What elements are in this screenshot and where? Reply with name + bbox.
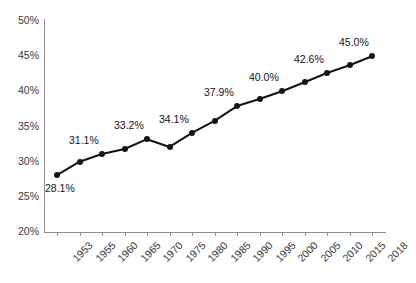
x-tick-mark [372,232,373,236]
data-point-marker [257,96,263,102]
x-tick-label: 2005 [317,239,342,264]
x-tick-label: 1995 [272,239,297,264]
data-point-marker [122,146,128,152]
y-tick-label: 35% [18,120,39,132]
x-tick-mark [57,232,58,236]
x-tick-label: 1970 [160,239,185,264]
y-axis-tick-labels: 20%25%30%35%40%45%50% [0,0,39,283]
line-chart: 20%25%30%35%40%45%50% 195319551960196519… [0,0,416,283]
x-tick-label: 2018 [385,239,410,264]
y-tick-label: 50% [18,14,39,26]
x-tick-mark [102,232,103,236]
y-tick-label: 20% [18,225,39,237]
data-point-marker [144,136,150,142]
x-tick-label: 2000 [295,239,320,264]
data-point-value-label: 45.0% [339,36,369,48]
x-tick-mark [80,232,81,236]
x-tick-mark [192,232,193,236]
x-tick-mark [282,232,283,236]
y-tick-label: 40% [18,84,39,96]
data-point-value-label: 33.2% [114,119,144,131]
data-point-value-label: 42.6% [294,53,324,65]
data-point-marker [189,130,195,136]
data-point-marker [302,79,308,85]
x-tick-label: 2010 [340,239,365,264]
data-point-marker [324,70,330,76]
y-tick-label: 25% [18,190,39,202]
y-tick-label: 30% [18,155,39,167]
x-tick-mark [215,232,216,236]
data-point-value-label: 28.1% [45,182,75,194]
x-tick-mark [350,232,351,236]
x-tick-mark [147,232,148,236]
data-point-marker [167,144,173,150]
x-tick-label: 1985 [227,239,252,264]
x-tick-label: 1965 [137,239,162,264]
x-tick-label: 1953 [70,239,95,264]
x-tick-mark [170,232,171,236]
x-tick-mark [125,232,126,236]
x-tick-mark [305,232,306,236]
x-tick-label: 1960 [115,239,140,264]
data-point-marker [347,62,353,68]
data-point-marker [99,151,105,157]
data-point-value-label: 31.1% [69,134,99,146]
data-point-value-label: 37.9% [204,86,234,98]
data-point-marker [212,118,218,124]
data-point-marker [234,103,240,109]
data-point-marker [77,159,83,165]
x-tick-mark [327,232,328,236]
data-point-marker [369,53,375,59]
x-tick-label: 1975 [182,239,207,264]
y-tick-label: 45% [18,49,39,61]
y-axis-line [44,19,45,233]
x-tick-label: 1980 [205,239,230,264]
data-point-value-label: 40.0% [249,71,279,83]
x-tick-mark [237,232,238,236]
x-tick-mark [260,232,261,236]
x-tick-label: 1955 [92,239,117,264]
data-point-marker [54,172,60,178]
data-point-marker [279,88,285,94]
data-point-value-label: 34.1% [159,113,189,125]
x-tick-label: 1990 [250,239,275,264]
x-tick-label: 2015 [362,239,387,264]
